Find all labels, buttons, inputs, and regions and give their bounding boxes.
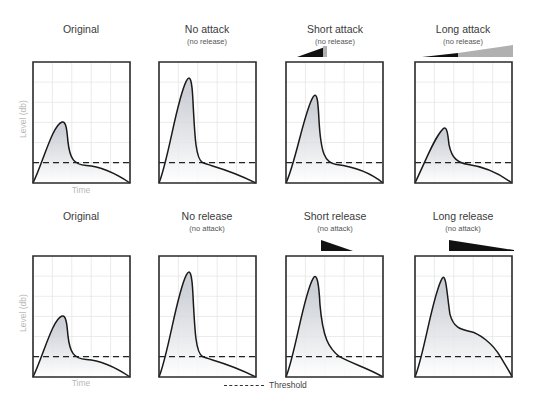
long-release-wedge-icon — [449, 240, 514, 251]
panel-title-no-attack: No attack — [185, 23, 229, 35]
legend-label: Threshold — [269, 380, 307, 390]
y-axis-label-bottom: Level (db) — [18, 278, 28, 348]
panel-subtitle-no-attack: (no release) — [187, 37, 227, 46]
panel-title-long-release: Long release — [433, 210, 494, 222]
chart-panel-original-bottom — [33, 256, 130, 377]
panel-title-no-release: No release — [182, 210, 233, 222]
y-axis-label-top: Level (db) — [18, 84, 28, 154]
chart-panel-long-release — [415, 256, 512, 377]
panel-title-short-release: Short release — [304, 210, 366, 222]
chart-panel-original-top — [33, 62, 130, 183]
short-attack-wedge-icon — [297, 46, 328, 57]
panel-subtitle-no-release: (no attack) — [189, 224, 224, 233]
long-attack-wedge-icon — [422, 45, 513, 57]
x-axis-label-top: Time — [72, 185, 91, 195]
chart-panel-no-release — [159, 256, 256, 377]
panel-title-short-attack: Short attack — [307, 23, 363, 35]
chart-panel-short-release — [286, 256, 383, 377]
panel-title-long-attack: Long attack — [436, 23, 490, 35]
chart-panel-long-attack — [415, 62, 512, 183]
panel-subtitle-long-release: (no attack) — [445, 224, 480, 233]
threshold-legend: Threshold — [224, 380, 307, 390]
panel-title-original-1: Original — [63, 23, 99, 35]
x-axis-label-bottom: Time — [72, 378, 91, 388]
panel-subtitle-short-release: (no attack) — [317, 224, 352, 233]
panel-title-original-2: Original — [63, 210, 99, 222]
dashed-line-icon — [224, 385, 264, 386]
chart-panel-short-attack — [286, 62, 383, 183]
panel-subtitle-short-attack: (no release) — [315, 37, 355, 46]
chart-panel-no-attack — [159, 62, 256, 183]
short-release-wedge-icon — [321, 240, 353, 251]
